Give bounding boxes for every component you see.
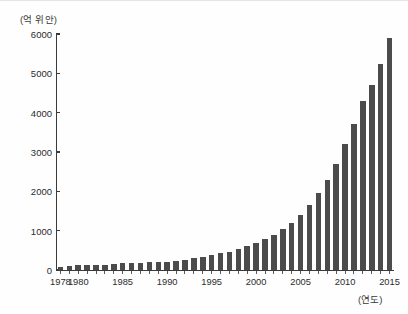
bar — [111, 264, 117, 270]
bar — [191, 258, 197, 270]
bar — [129, 263, 135, 270]
bar — [280, 229, 286, 270]
bar — [378, 64, 384, 271]
bar — [147, 262, 153, 270]
bar — [164, 262, 170, 270]
bar — [298, 215, 304, 270]
bar — [93, 265, 99, 270]
bar — [316, 193, 322, 270]
bar — [84, 265, 90, 270]
bar — [307, 205, 313, 270]
bar — [218, 253, 224, 270]
bar — [156, 262, 162, 270]
bar — [236, 249, 242, 270]
bar — [387, 38, 393, 270]
bar — [173, 261, 179, 270]
bar — [67, 266, 73, 270]
bar — [369, 85, 375, 270]
bar — [253, 243, 259, 270]
bar — [325, 180, 331, 270]
bar-series-layer — [0, 0, 408, 314]
bar — [271, 235, 277, 270]
bar — [182, 260, 188, 270]
bar — [333, 164, 339, 270]
bar — [360, 101, 366, 270]
bar — [200, 257, 206, 270]
bar-chart-figure: (억 위안) 0100020003000400050006000 1978198… — [0, 0, 408, 314]
bar — [102, 265, 108, 271]
bar — [342, 144, 348, 270]
bar — [75, 265, 81, 270]
bar — [262, 239, 268, 270]
x-axis-unit-label: (연도) — [358, 292, 382, 306]
bar — [138, 263, 144, 270]
bar — [120, 263, 126, 270]
bar — [289, 223, 295, 270]
bar — [244, 246, 250, 270]
bar — [58, 267, 64, 270]
bar — [227, 252, 233, 270]
bar — [351, 124, 357, 270]
bar — [209, 255, 215, 270]
